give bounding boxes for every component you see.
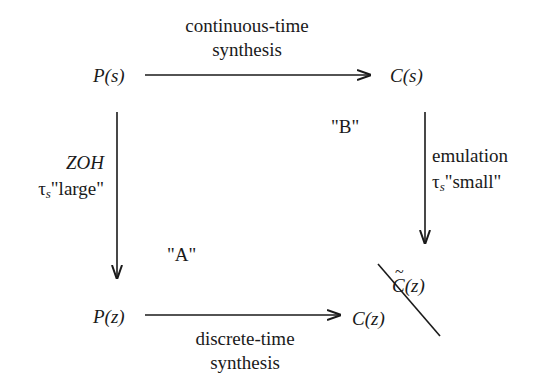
top-edge-label: continuous-time synthesis bbox=[172, 14, 322, 62]
region-b-label: "B" bbox=[331, 117, 359, 136]
bottom-edge-label: discrete-time synthesis bbox=[180, 327, 310, 375]
node-c-tilde-z: C(z) bbox=[392, 276, 425, 295]
node-c-z: C(z) bbox=[352, 309, 385, 328]
region-a-label: "A" bbox=[167, 245, 196, 264]
left-edge-tau-large: τs"large" bbox=[38, 176, 104, 207]
bottom-edge-line2: synthesis bbox=[180, 351, 310, 375]
node-p-z: P(z) bbox=[93, 307, 125, 326]
right-edge-label: emulation τs"small" bbox=[432, 143, 508, 200]
node-c-s: C(s) bbox=[390, 66, 423, 85]
large-label: "large" bbox=[51, 178, 104, 199]
top-edge-line2: synthesis bbox=[172, 38, 322, 62]
top-edge-line1: continuous-time bbox=[172, 14, 322, 38]
right-edge-tau-small: τs"small" bbox=[432, 169, 508, 200]
tau-symbol: τ bbox=[38, 178, 46, 199]
bottom-edge-line1: discrete-time bbox=[180, 327, 310, 351]
node-p-s: P(s) bbox=[93, 66, 125, 85]
small-label: "small" bbox=[445, 171, 502, 192]
tau-symbol: τ bbox=[432, 171, 440, 192]
left-edge-zoh: ZOH bbox=[38, 150, 104, 176]
c-tilde-z-text: C(z) bbox=[392, 276, 425, 295]
left-edge-label: ZOH τs"large" bbox=[38, 150, 104, 207]
right-edge-emulation: emulation bbox=[432, 143, 508, 169]
